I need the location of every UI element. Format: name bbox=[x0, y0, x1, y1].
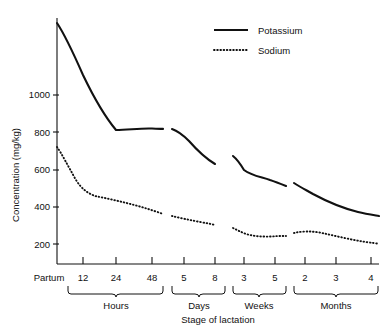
y-tick-label: 200 bbox=[34, 239, 50, 250]
x-axis-title: Stage of lactation bbox=[181, 314, 254, 325]
series-potassium-segment-hours bbox=[57, 23, 163, 130]
group-label-weeks: Weeks bbox=[245, 300, 274, 311]
x-tick-label: 8 bbox=[212, 272, 217, 283]
y-tick-label: 1000 bbox=[29, 89, 50, 100]
x-axis-ticks bbox=[83, 257, 371, 264]
bracket-days bbox=[172, 286, 225, 297]
y-tick-label: 800 bbox=[34, 127, 50, 138]
bracket-weeks bbox=[233, 286, 286, 297]
line-chart: Concentration (mg/kg) 1000 800 600 400 2… bbox=[0, 0, 390, 326]
x-origin-label: Partum bbox=[34, 272, 65, 283]
series-potassium-segment-days bbox=[172, 129, 215, 164]
x-axis-group-labels: Hours Days Weeks Months bbox=[103, 300, 351, 311]
chart-legend: Potassium Sodium bbox=[214, 25, 302, 56]
y-axis-tick-labels: 1000 800 600 400 200 bbox=[29, 89, 50, 250]
group-label-months: Months bbox=[320, 300, 351, 311]
series-sodium-segment-hours bbox=[57, 147, 163, 214]
x-tick-label: 48 bbox=[147, 272, 158, 283]
series-potassium-segment-weeks bbox=[233, 156, 286, 186]
series-sodium bbox=[57, 147, 379, 244]
x-tick-label: 2 bbox=[302, 272, 307, 283]
series-sodium-segment-weeks bbox=[233, 228, 286, 237]
bracket-hours bbox=[68, 286, 163, 297]
series-sodium-segment-days bbox=[172, 216, 215, 225]
series-sodium-segment-months bbox=[294, 232, 379, 245]
x-tick-label: 5 bbox=[181, 272, 186, 283]
x-axis-group-brackets bbox=[68, 286, 378, 297]
group-label-days: Days bbox=[188, 300, 210, 311]
x-axis-tick-labels: 12 24 48 5 8 3 5 2 3 4 bbox=[78, 272, 374, 283]
bracket-months bbox=[294, 286, 378, 297]
group-label-hours: Hours bbox=[103, 300, 129, 311]
chart-container: Concentration (mg/kg) 1000 800 600 400 2… bbox=[0, 0, 390, 326]
series-potassium bbox=[57, 23, 379, 216]
x-tick-label: 3 bbox=[241, 272, 246, 283]
x-tick-label: 3 bbox=[333, 272, 338, 283]
legend-label-potassium: Potassium bbox=[258, 25, 302, 36]
y-axis-ticks bbox=[53, 95, 59, 244]
x-tick-label: 12 bbox=[78, 272, 89, 283]
y-axis-title: Concentration (mg/kg) bbox=[10, 128, 21, 222]
y-tick-label: 400 bbox=[34, 201, 50, 212]
y-tick-label: 600 bbox=[34, 164, 50, 175]
series-potassium-segment-months bbox=[294, 183, 379, 216]
x-tick-label: 4 bbox=[368, 272, 373, 283]
x-tick-label: 24 bbox=[111, 272, 122, 283]
x-tick-label: 5 bbox=[272, 272, 277, 283]
legend-label-sodium: Sodium bbox=[258, 45, 290, 56]
